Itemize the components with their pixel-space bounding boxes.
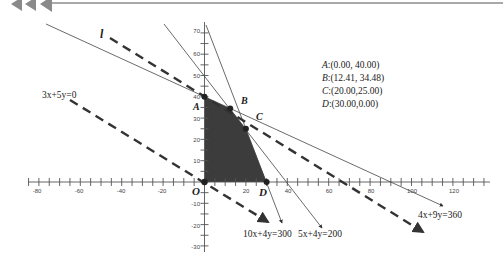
coord-b: B:(12.41, 34.48) bbox=[322, 73, 384, 84]
point-c bbox=[243, 126, 249, 132]
point-b-label: B bbox=[240, 95, 248, 106]
x-tick-label: -40 bbox=[117, 188, 126, 194]
lp-diagram: -80 -60 -40 -20 20 40 60 80 100 120 70 6… bbox=[0, 0, 503, 269]
left-arrow-icon bbox=[25, 0, 36, 11]
point-d-label: D bbox=[258, 186, 267, 198]
x-tick-label: 40 bbox=[285, 188, 292, 194]
y-tick-label: 20 bbox=[193, 137, 200, 143]
x-tick-label: 80 bbox=[368, 188, 375, 194]
constraint-line-5x4y200 bbox=[164, 24, 322, 228]
x-tick-label: -80 bbox=[33, 188, 42, 194]
point-c-label: C bbox=[256, 111, 263, 122]
point-a-label: A bbox=[192, 101, 200, 112]
feasible-region bbox=[205, 97, 267, 182]
x-tick-label: 20 bbox=[243, 188, 250, 194]
y-tick-label: 60 bbox=[193, 51, 200, 57]
coord-a: A:(0.00, 40.00) bbox=[321, 60, 380, 71]
eq-4x9y360-label: 4x+9y=360 bbox=[418, 210, 462, 220]
x-tick-label: 60 bbox=[326, 188, 333, 194]
y-tick-label: 30 bbox=[193, 116, 200, 122]
point-d bbox=[264, 179, 270, 185]
left-arrow-icon bbox=[11, 0, 22, 11]
x-tick-label: 100 bbox=[407, 188, 418, 194]
y-tick-label: -20 bbox=[191, 223, 200, 229]
header-banner bbox=[11, 0, 503, 12]
x-tick-label: 120 bbox=[449, 188, 460, 194]
origin-label: O bbox=[192, 185, 200, 197]
left-arrow-icon bbox=[40, 0, 52, 12]
y-tick-label: 10 bbox=[193, 158, 200, 164]
y-tick-label: 70 bbox=[193, 28, 200, 34]
eq-10x4y300-label: 10x+4y=300 bbox=[243, 229, 292, 239]
point-o bbox=[201, 179, 207, 185]
x-tick-label: -60 bbox=[75, 188, 84, 194]
y-tick-label: -30 bbox=[191, 244, 200, 250]
x-tick-labels: -80 -60 -40 -20 20 40 60 80 100 120 bbox=[33, 188, 460, 194]
x-tick-label: -20 bbox=[158, 188, 167, 194]
point-a bbox=[202, 94, 208, 100]
coord-c: C:(20.00,25.00) bbox=[322, 86, 382, 97]
y-tick-label: 50 bbox=[193, 73, 200, 79]
line-l-label: l bbox=[100, 27, 104, 41]
y-tick-label: -10 bbox=[191, 201, 200, 207]
coord-d: D:(30.00,0.00) bbox=[321, 99, 378, 110]
eq-3x5y0-label: 3x+5y=0 bbox=[42, 90, 77, 100]
vertex-coordinates-list: A:(0.00, 40.00) B:(12.41, 34.48) C:(20.0… bbox=[321, 60, 384, 110]
eq-5x4y200-label: 5x+4y=200 bbox=[298, 229, 342, 239]
point-b bbox=[227, 106, 233, 112]
